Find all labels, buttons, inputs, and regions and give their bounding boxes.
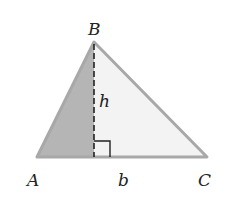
- triangle-diagram: B h A b C: [0, 0, 228, 210]
- label-height-h: h: [99, 91, 110, 111]
- label-base-b: b: [118, 170, 129, 190]
- label-vertex-c: C: [198, 170, 211, 190]
- label-vertex-b: B: [87, 19, 101, 39]
- label-vertex-a: A: [25, 170, 39, 190]
